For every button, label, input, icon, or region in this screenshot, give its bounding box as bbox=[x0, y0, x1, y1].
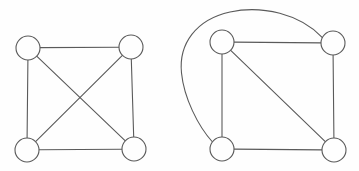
right-graph bbox=[181, 10, 346, 162]
right-graph-bottom-edge bbox=[234, 149, 322, 150]
right-graph-bottom-right-node bbox=[322, 138, 346, 162]
right-graph-right-edge bbox=[333, 55, 334, 138]
left-graph-top-left-node bbox=[16, 36, 40, 60]
left-graph-edges bbox=[27, 47, 134, 149]
figure-root bbox=[0, 0, 359, 171]
left-graph-bottom-right-node bbox=[122, 137, 146, 161]
left-graph-right-edge bbox=[131, 59, 133, 137]
left-graph bbox=[15, 35, 146, 162]
right-graph-bottom-left-node bbox=[210, 137, 234, 161]
right-graph-top-left-node bbox=[210, 30, 234, 54]
right-graph-curved-outer-edge-tr-bl bbox=[181, 10, 322, 142]
right-graph-top-right-node bbox=[321, 31, 345, 55]
right-graph-edges bbox=[181, 10, 334, 150]
left-graph-left-edge bbox=[27, 60, 28, 138]
left-graph-bottom-left-node bbox=[15, 138, 39, 162]
right-graph-diagonal-edge-tl-br bbox=[231, 50, 326, 141]
right-graph-top-edge bbox=[234, 42, 321, 43]
left-graph-top-right-node bbox=[119, 35, 143, 59]
graph-figure-svg bbox=[0, 0, 359, 171]
left-graph-bottom-edge bbox=[39, 149, 122, 150]
